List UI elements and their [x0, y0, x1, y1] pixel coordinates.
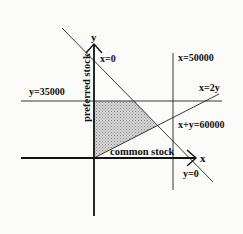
label-x-0: x=0	[100, 53, 116, 64]
y-axis-title: preferred stock	[81, 53, 92, 122]
x-axis-title: common stock	[110, 146, 175, 157]
label-y-35000: y=35000	[29, 86, 65, 97]
label-x-50000: x=50000	[178, 52, 214, 63]
label-x-plus-y-60000: x+y=60000	[178, 119, 224, 130]
lp-diagram: y x x=0 y=0 y=35000 x=50000 x=2y x+y=600…	[0, 0, 243, 234]
y-axis-label: y	[91, 31, 97, 43]
x-axis-label: x	[200, 152, 206, 164]
label-x-2y: x=2y	[199, 82, 220, 93]
label-y-0: y=0	[183, 168, 199, 179]
